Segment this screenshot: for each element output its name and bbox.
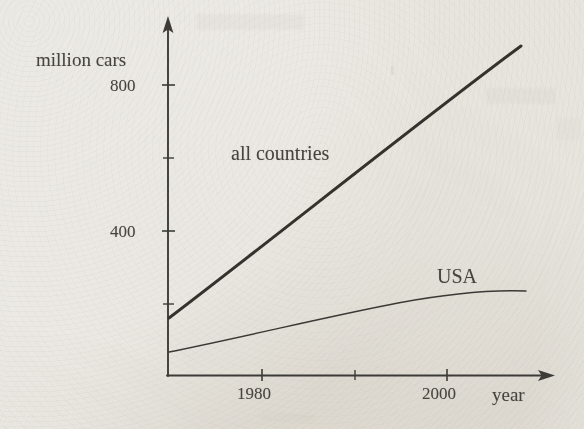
- series-line-usa: [169, 291, 526, 352]
- y-tick-label-400: 400: [110, 223, 136, 240]
- x-tick-label-2000: 2000: [422, 385, 456, 402]
- x-axis-title: year: [492, 385, 525, 404]
- figure-canvas: million cars 800 400 1980 2000 year all …: [0, 0, 584, 429]
- y-tick-label-800: 800: [110, 77, 136, 94]
- y-axis-title: million cars: [36, 50, 126, 69]
- series-label-all-countries: all countries: [231, 143, 329, 163]
- x-tick-label-1980: 1980: [237, 385, 271, 402]
- series-label-usa: USA: [437, 266, 477, 286]
